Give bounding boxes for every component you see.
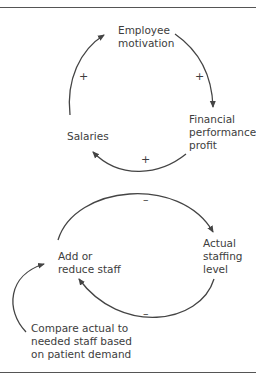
node-actual-staffing-level: Actual staffing level — [203, 237, 243, 276]
sign-financial-to-salaries: + — [141, 154, 150, 165]
sign-motivation-to-financial: + — [195, 71, 204, 82]
arrow-motivation-to-financial — [175, 34, 213, 107]
arrow-financial-to-salaries — [93, 152, 186, 171]
diagram-arrows — [0, 0, 256, 375]
sign-actual-to-add: – — [143, 308, 149, 319]
sign-salaries-to-motivation: + — [79, 71, 88, 82]
node-add-reduce-staff: Add or reduce staff — [58, 250, 121, 276]
node-compare-staff: Compare actual to needed staff based on … — [31, 322, 132, 361]
sign-add-to-actual: – — [143, 194, 149, 205]
node-financial-performance: Financial performance, profit — [189, 113, 256, 152]
arrow-add-to-actual — [58, 194, 213, 240]
node-salaries: Salaries — [67, 130, 109, 143]
node-employee-motivation: Employee motivation — [118, 24, 174, 50]
